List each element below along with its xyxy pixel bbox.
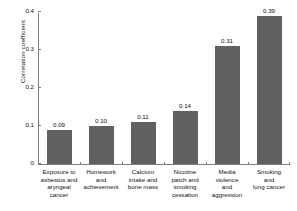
x-tick-mark [80, 162, 81, 165]
x-tick-mark [248, 162, 249, 165]
y-tick-label: 0.1 [25, 121, 34, 128]
bar-value-label: 0.11 [137, 113, 149, 120]
x-category-label-line: aggression [206, 191, 248, 199]
y-tick-label: 0.3 [25, 45, 34, 52]
bar-chart: Correlation coefficient 00.10.20.30.4 0.… [0, 0, 297, 211]
bar: 0.14 [173, 111, 198, 164]
bar-value-label: 0.31 [221, 37, 233, 44]
x-category-label-line: Nicotine [164, 168, 206, 176]
x-category-label-line: and [80, 176, 122, 184]
y-tick-label: 0.4 [25, 7, 34, 14]
x-category-label: Exposure toasbestos andaryngeal cancer [38, 168, 80, 198]
x-category-label-line: and [206, 183, 248, 191]
bar: 0.11 [131, 122, 156, 164]
x-category-label-line: Media [206, 168, 248, 176]
bar-value-label: 0.09 [53, 121, 65, 128]
y-axis-title: Correlation coefficient [19, 0, 26, 112]
x-category-label-line: asbestos and [38, 176, 80, 184]
x-category-label-line: Exposure to [38, 168, 80, 176]
x-category-label: Nicotinepatch andsmokingcessation [164, 168, 206, 198]
x-tick-mark [164, 162, 165, 165]
bar: 0.10 [89, 126, 114, 164]
y-tick-mark [38, 125, 41, 126]
y-tick-mark [38, 49, 41, 50]
x-category-label: Smokingandlung cancer [248, 168, 290, 191]
x-category-label: Homeworkandachievement [80, 168, 122, 191]
x-category-label: Calciumintake andbone mass [122, 168, 164, 191]
x-tick-mark [38, 162, 39, 165]
bar-value-label: 0.39 [263, 7, 275, 14]
bar: 0.09 [47, 130, 72, 164]
x-category-label-line: aryngeal cancer [38, 183, 80, 198]
x-category-label-line: Homework [80, 168, 122, 176]
x-category-label-line: Smoking [248, 168, 290, 176]
x-category-label-line: lung cancer [248, 183, 290, 191]
x-category-label-line: patch and [164, 176, 206, 184]
x-category-label-line: smoking [164, 183, 206, 191]
x-category-label: Mediaviolenceandaggression [206, 168, 248, 198]
bar-value-label: 0.10 [95, 117, 107, 124]
x-category-label-line: achievement [80, 183, 122, 191]
x-category-label-line: Calcium [122, 168, 164, 176]
x-category-label-line: intake and [122, 176, 164, 184]
x-tick-mark [122, 162, 123, 165]
y-tick-label: 0.2 [25, 83, 34, 90]
plot-area: 00.10.20.30.4 0.090.100.110.140.310.39 [38, 13, 290, 165]
x-category-label-line: violence [206, 176, 248, 184]
bar-value-label: 0.14 [179, 102, 191, 109]
y-axis-line [38, 13, 39, 165]
bar: 0.31 [215, 46, 240, 164]
y-tick-mark [38, 87, 41, 88]
x-category-label-line: bone mass [122, 183, 164, 191]
x-tick-mark [289, 162, 290, 165]
y-tick-label: 0 [31, 159, 34, 166]
x-category-label-line: and [248, 176, 290, 184]
x-tick-mark [206, 162, 207, 165]
bar: 0.39 [257, 16, 282, 164]
y-tick-mark [38, 11, 41, 12]
x-category-label-line: cessation [164, 191, 206, 199]
